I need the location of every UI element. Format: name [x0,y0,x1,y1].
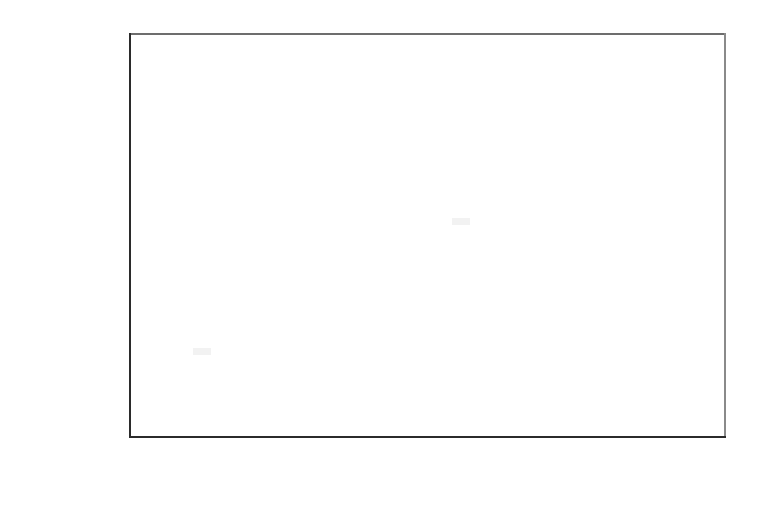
scan-artifact [131,396,725,397]
plot-area [131,33,725,437]
series-svg [131,33,725,437]
plot-frame-right-edge [724,33,726,438]
plot-frame-top-edge [131,33,726,35]
stacked-area-chart [0,0,769,525]
series-label-medical-services [452,218,470,225]
series-label-all-items [193,348,211,355]
x-axis-line [129,436,726,438]
y-axis-line [129,33,131,438]
